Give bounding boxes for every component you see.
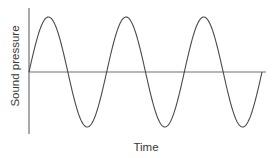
y-axis-label: Sound pressure [9, 25, 21, 106]
chart: Time Sound pressure [0, 0, 274, 158]
x-axis-label: Time [133, 141, 158, 153]
